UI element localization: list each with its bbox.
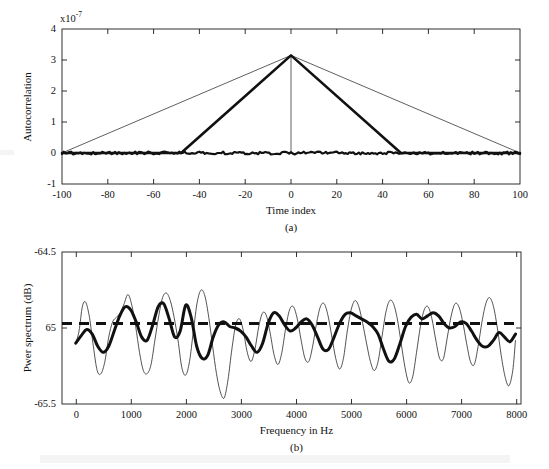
panel-a-curves <box>62 55 520 154</box>
panel-a-plot-area <box>0 0 549 235</box>
panel-b-plot-area <box>0 235 549 469</box>
panel-b-curves <box>62 290 521 399</box>
panel-b-power-spectrum: Pwer spectrum (dB) -64.5 65 -65.5 0 1000… <box>0 235 549 469</box>
series-periodogram-fine <box>76 290 516 399</box>
figure-root: x10-7 Autocorrelation 4 3 2 1 0 -1 -100 … <box>0 0 549 469</box>
panel-a-autocorrelation: x10-7 Autocorrelation 4 3 2 1 0 -1 -100 … <box>0 0 549 235</box>
